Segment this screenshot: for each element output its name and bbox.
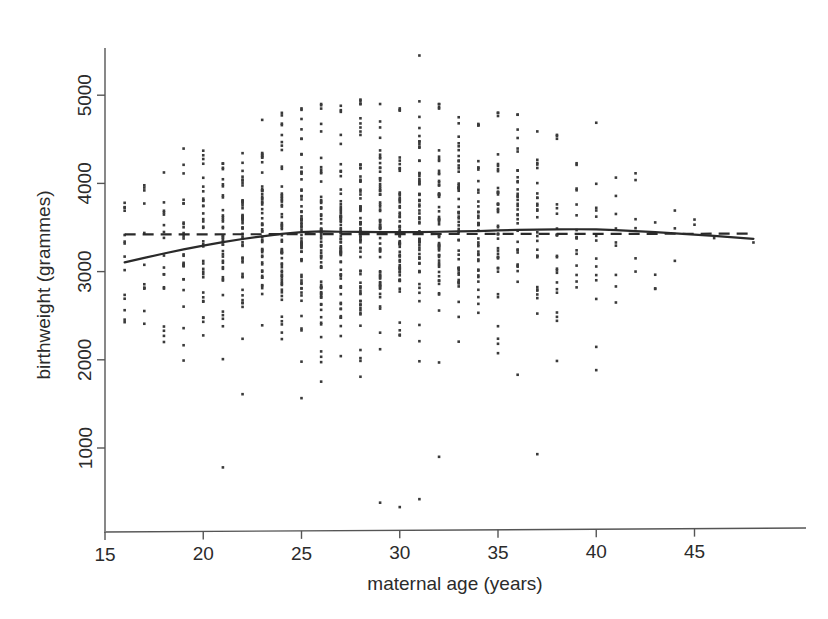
data-points-layer <box>123 54 754 508</box>
x-tick-label: 25 <box>291 543 312 564</box>
data-point <box>418 199 421 202</box>
x-tick-label: 40 <box>586 541 607 562</box>
data-point <box>320 166 323 169</box>
data-point <box>340 261 343 264</box>
data-point <box>202 334 205 337</box>
data-point <box>477 312 480 315</box>
data-point <box>359 210 362 213</box>
data-point <box>359 269 362 272</box>
scatter-plot: 15202530354045 10002000300040005000 mate… <box>0 0 828 619</box>
data-point <box>457 282 460 285</box>
data-point <box>516 137 519 140</box>
data-point <box>202 276 205 279</box>
data-point <box>497 256 500 259</box>
data-point <box>379 348 382 351</box>
data-point <box>457 149 460 152</box>
data-point <box>359 130 362 133</box>
data-point <box>281 213 284 216</box>
data-point <box>379 210 382 213</box>
data-point <box>241 204 244 207</box>
data-point <box>281 284 284 287</box>
data-point <box>202 296 205 299</box>
x-tick-label: 35 <box>487 542 508 563</box>
data-point <box>359 324 362 327</box>
data-point <box>300 171 303 174</box>
data-point <box>379 126 382 129</box>
data-point <box>359 360 362 363</box>
data-point <box>654 221 657 224</box>
data-point <box>202 220 205 223</box>
data-point <box>556 203 559 206</box>
data-point <box>241 216 244 219</box>
data-point <box>693 223 696 226</box>
data-point <box>359 193 362 196</box>
data-point <box>123 294 126 297</box>
data-point <box>556 135 559 138</box>
data-point <box>477 237 480 240</box>
data-point <box>261 208 264 211</box>
data-point <box>418 212 421 215</box>
data-point <box>457 170 460 173</box>
data-point <box>536 286 539 289</box>
data-point <box>320 228 323 231</box>
data-point <box>457 258 460 261</box>
data-point <box>379 293 382 296</box>
data-point <box>123 321 126 324</box>
data-point <box>398 191 401 194</box>
data-point <box>241 275 244 278</box>
data-point <box>261 193 264 196</box>
data-point <box>281 315 284 318</box>
data-point <box>457 221 460 224</box>
data-point <box>497 296 500 299</box>
data-point <box>359 117 362 120</box>
data-point <box>457 145 460 148</box>
data-point <box>536 235 539 238</box>
data-point <box>241 175 244 178</box>
data-point <box>359 256 362 259</box>
data-point <box>398 109 401 112</box>
data-point <box>575 280 578 283</box>
data-point <box>261 156 264 159</box>
data-point <box>497 203 500 206</box>
data-point <box>300 195 303 198</box>
data-point <box>202 149 205 152</box>
data-point <box>575 203 578 206</box>
data-point <box>398 260 401 263</box>
data-point <box>281 266 284 269</box>
data-point <box>340 246 343 249</box>
data-point <box>340 224 343 227</box>
data-point <box>222 466 225 469</box>
data-point <box>477 274 480 277</box>
data-point <box>163 273 166 276</box>
data-point <box>379 166 382 169</box>
data-point <box>340 277 343 280</box>
data-point <box>418 135 421 138</box>
data-point <box>359 163 362 166</box>
data-point <box>320 180 323 183</box>
data-point <box>398 271 401 274</box>
data-point <box>477 200 480 203</box>
data-point <box>340 143 343 146</box>
data-point <box>359 281 362 284</box>
y-axis-title: birthweight (grammes) <box>33 191 54 380</box>
data-point <box>340 249 343 252</box>
data-point <box>398 321 401 324</box>
data-point <box>202 176 205 179</box>
data-point <box>516 222 519 225</box>
data-point <box>595 298 598 301</box>
data-point <box>379 149 382 152</box>
data-point <box>340 206 343 209</box>
data-point <box>418 283 421 286</box>
constant-fit-line <box>125 234 754 235</box>
x-tick-label: 30 <box>389 542 410 563</box>
data-point <box>497 225 500 228</box>
data-point <box>398 506 401 509</box>
data-point <box>281 239 284 242</box>
data-point <box>300 258 303 261</box>
data-point <box>182 202 185 205</box>
data-point <box>556 311 559 314</box>
data-point <box>536 192 539 195</box>
data-point <box>340 175 343 178</box>
data-point <box>359 122 362 125</box>
data-point <box>497 270 500 273</box>
